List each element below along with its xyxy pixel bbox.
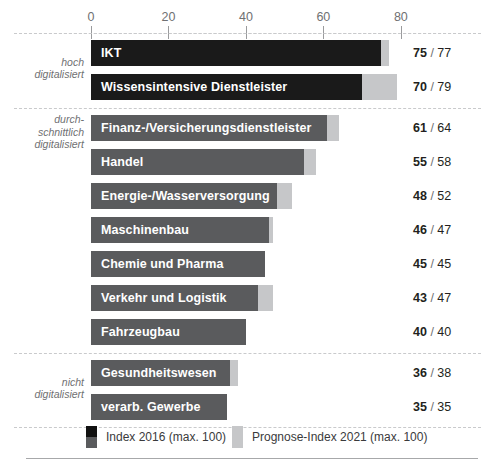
bar-group: Verkehr und Logistik xyxy=(91,285,273,311)
value-prognose-2021: 64 xyxy=(437,121,451,135)
legend-item-prognose-2021: Prognose-Index 2021 (max. 100) xyxy=(232,424,427,450)
bar-value-labels: 75 / 77 xyxy=(413,46,451,60)
bar-group: verarb. Gewerbe xyxy=(91,394,227,420)
bar-group: Energie-/Wasserversorgung xyxy=(91,183,292,209)
value-index-2016: 35 xyxy=(413,400,427,414)
bottom-rule xyxy=(26,458,478,459)
value-prognose-2021: 79 xyxy=(437,80,451,94)
bar-index-2016: Maschinenbau xyxy=(91,217,269,243)
value-prognose-2021: 47 xyxy=(437,291,451,305)
bar-index-2016: Fahrzeugbau xyxy=(91,319,246,345)
axis-tick-label-60: 60 xyxy=(316,10,330,24)
bar-index-2016: Chemie und Pharma xyxy=(91,251,265,277)
bar-row: Gesundheitswesen36 / 38 xyxy=(0,360,495,386)
bar-category-label: Energie-/Wasserversorgung xyxy=(91,189,270,203)
bar-index-2016: IKT xyxy=(91,40,381,66)
bar-group: Finanz-/Versicherungsdienstleister xyxy=(91,115,339,141)
value-index-2016: 48 xyxy=(413,189,427,203)
bar-row: Handel55 / 58 xyxy=(0,149,495,175)
axis-tick-label-20: 20 xyxy=(162,10,176,24)
bar-category-label: Fahrzeugbau xyxy=(91,325,180,339)
bar-group: Wissensintensive Dienstleister xyxy=(91,74,397,100)
bar-row: verarb. Gewerbe35 / 35 xyxy=(0,394,495,420)
bar-group: Maschinenbau xyxy=(91,217,273,243)
bar-index-2016: Wissensintensive Dienstleister xyxy=(91,74,362,100)
bar-row: Fahrzeugbau40 / 40 xyxy=(0,319,495,345)
bar-value-labels: 35 / 35 xyxy=(413,400,451,414)
value-prognose-2021: 47 xyxy=(437,223,451,237)
axis-tick-label-0: 0 xyxy=(88,10,95,24)
value-separator: / xyxy=(427,291,437,305)
value-index-2016: 46 xyxy=(413,223,427,237)
legend-item-index-2016: Index 2016 (max. 100) xyxy=(86,424,226,450)
bar-row: Chemie und Pharma45 / 45 xyxy=(0,251,495,277)
bar-index-2016: Handel xyxy=(91,149,304,175)
bar-value-labels: 55 / 58 xyxy=(413,155,451,169)
chart-legend: Index 2016 (max. 100) Prognose-Index 202… xyxy=(0,424,495,450)
bar-category-label: Chemie und Pharma xyxy=(91,257,224,271)
legend-swatch-index-2016-icon xyxy=(86,426,97,448)
separator-above-hoch xyxy=(14,33,481,34)
axis-tick-label-40: 40 xyxy=(239,10,253,24)
bar-category-label: Handel xyxy=(91,155,143,169)
bar-index-2016: Energie-/Wasserversorgung xyxy=(91,183,277,209)
value-prognose-2021: 35 xyxy=(437,400,451,414)
value-separator: / xyxy=(427,80,437,94)
bar-group: Gesundheitswesen xyxy=(91,360,238,386)
digitalization-index-bar-chart: 020406080 hochdigitalisiertdurch-schnitt… xyxy=(0,0,495,473)
value-prognose-2021: 45 xyxy=(437,257,451,271)
bar-row: Verkehr und Logistik43 / 47 xyxy=(0,285,495,311)
bar-category-label: Gesundheitswesen xyxy=(91,366,217,380)
bar-category-label: verarb. Gewerbe xyxy=(91,400,200,414)
bar-group: Chemie und Pharma xyxy=(91,251,265,277)
value-index-2016: 43 xyxy=(413,291,427,305)
legend-swatch-prognose-2021-icon xyxy=(232,426,243,448)
bar-category-label: IKT xyxy=(91,46,121,60)
value-index-2016: 36 xyxy=(413,366,427,380)
bar-value-labels: 43 / 47 xyxy=(413,291,451,305)
bar-category-label: Verkehr und Logistik xyxy=(91,291,227,305)
value-prognose-2021: 52 xyxy=(437,189,451,203)
axis-tick-labels: 020406080 xyxy=(0,10,495,28)
value-index-2016: 45 xyxy=(413,257,427,271)
bar-value-labels: 45 / 45 xyxy=(413,257,451,271)
bar-index-2016: Finanz-/Versicherungsdienstleister xyxy=(91,115,327,141)
bar-value-labels: 61 / 64 xyxy=(413,121,451,135)
bar-index-2016: verarb. Gewerbe xyxy=(91,394,227,420)
bar-row: Maschinenbau46 / 47 xyxy=(0,217,495,243)
value-separator: / xyxy=(427,223,437,237)
bar-value-labels: 40 / 40 xyxy=(413,325,451,339)
value-index-2016: 40 xyxy=(413,325,427,339)
value-index-2016: 75 xyxy=(413,46,427,60)
value-separator: / xyxy=(427,189,437,203)
value-index-2016: 61 xyxy=(413,121,427,135)
value-prognose-2021: 40 xyxy=(437,325,451,339)
bar-row: Wissensintensive Dienstleister70 / 79 xyxy=(0,74,495,100)
value-prognose-2021: 77 xyxy=(437,46,451,60)
separator-above-durchschnittlich xyxy=(14,108,481,109)
bar-index-2016: Verkehr und Logistik xyxy=(91,285,258,311)
bar-row: IKT75 / 77 xyxy=(0,40,495,66)
bar-category-label: Wissensintensive Dienstleister xyxy=(91,80,287,94)
value-separator: / xyxy=(427,257,437,271)
bar-category-label: Finanz-/Versicherungsdienstleister xyxy=(91,121,311,135)
bar-value-labels: 48 / 52 xyxy=(413,189,451,203)
value-index-2016: 70 xyxy=(413,80,427,94)
bar-group: IKT xyxy=(91,40,389,66)
bar-value-labels: 70 / 79 xyxy=(413,80,451,94)
legend-label-prognose-2021: Prognose-Index 2021 (max. 100) xyxy=(252,430,427,444)
value-separator: / xyxy=(427,366,437,380)
legend-label-index-2016: Index 2016 (max. 100) xyxy=(106,430,226,444)
value-prognose-2021: 38 xyxy=(437,366,451,380)
bar-category-label: Maschinenbau xyxy=(91,223,189,237)
bar-row: Energie-/Wasserversorgung48 / 52 xyxy=(0,183,495,209)
bar-value-labels: 36 / 38 xyxy=(413,366,451,380)
bar-value-labels: 46 / 47 xyxy=(413,223,451,237)
value-separator: / xyxy=(427,155,437,169)
value-separator: / xyxy=(427,325,437,339)
value-prognose-2021: 58 xyxy=(437,155,451,169)
bar-group: Handel xyxy=(91,149,316,175)
bar-group: Fahrzeugbau xyxy=(91,319,246,345)
value-separator: / xyxy=(427,46,437,60)
axis-tick-label-80: 80 xyxy=(394,10,408,24)
